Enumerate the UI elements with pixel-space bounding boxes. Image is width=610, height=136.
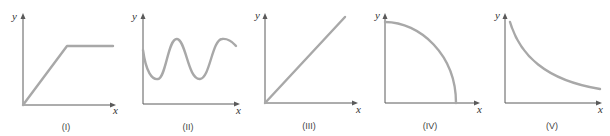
x-label: x <box>235 104 241 116</box>
graph-4: y x (IV) <box>374 9 482 131</box>
caption: (V) <box>546 121 558 131</box>
graph-3: y x (III) <box>254 9 361 131</box>
caption: (IV) <box>423 121 438 131</box>
caption: (I) <box>62 122 71 132</box>
x-label: x <box>112 104 118 116</box>
curve-quarter-circle <box>385 22 456 103</box>
curve-decay <box>510 22 600 89</box>
y-label: y <box>11 10 17 22</box>
caption: (II) <box>183 122 194 132</box>
caption: (III) <box>302 121 316 131</box>
graph-5: y x (V) <box>494 9 603 131</box>
x-label: x <box>355 103 361 115</box>
graph-2: y x (II) <box>131 10 241 132</box>
y-axis-arrow-icon <box>263 13 268 19</box>
x-label: x <box>597 103 603 115</box>
y-axis-arrow-icon <box>21 13 26 19</box>
y-label: y <box>494 9 500 21</box>
graph-1: y x (I) <box>11 10 118 132</box>
y-label: y <box>254 9 260 21</box>
y-axis-arrow-icon <box>503 13 508 19</box>
curve-sine-wave <box>143 39 236 79</box>
curve-straight-line <box>265 17 345 103</box>
graphs-figure: y x (I) y x (II) y x (III) y x (IV) <box>0 0 610 136</box>
y-axis-arrow-icon <box>141 13 146 19</box>
y-label: y <box>374 9 380 21</box>
curve-ramp-plateau <box>23 46 113 105</box>
x-label: x <box>476 103 482 115</box>
y-axis-arrow-icon <box>383 13 388 19</box>
y-label: y <box>131 10 137 22</box>
